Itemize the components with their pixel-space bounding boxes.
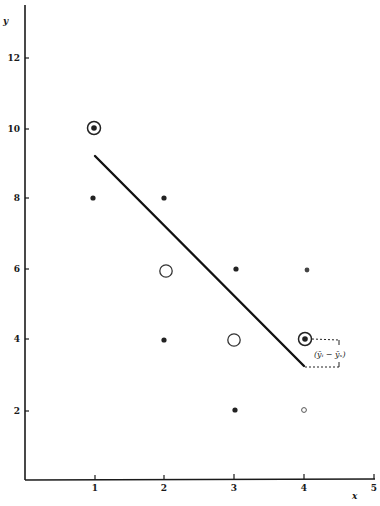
- scatter-chart: 12 10 8 6 4 2 y 1 2 3 4 5 x: [0, 0, 380, 506]
- y-tick-labels: 12 10 8 6 4 2: [7, 53, 20, 416]
- circled-points: [88, 122, 312, 346]
- y-tick-4: 4: [14, 334, 20, 344]
- point-4-2-open: [302, 408, 307, 413]
- y-axis-label: y: [2, 16, 9, 26]
- observation-points: [90, 195, 309, 412]
- x-tick-3: 3: [231, 483, 237, 493]
- point-2-4: [161, 337, 166, 342]
- x-tick-2: 2: [161, 483, 167, 493]
- deviation-annotation: (ȳᵢ − ȳₓ): [314, 350, 346, 359]
- y-tick-6: 6: [14, 264, 20, 274]
- point-3-6: [233, 266, 238, 271]
- mean-3-4: [228, 334, 240, 346]
- point-4-6: [305, 268, 310, 273]
- x-axis-label: x: [351, 491, 358, 501]
- y-tick-8: 8: [14, 193, 20, 203]
- x-axis: [25, 479, 375, 480]
- x-tick-1: 1: [92, 483, 98, 493]
- y-tick-12: 12: [7, 53, 20, 63]
- point-3-2: [232, 407, 237, 412]
- axes: [25, 5, 375, 480]
- x-tick-4: 4: [301, 483, 307, 493]
- point-1-8: [90, 195, 95, 200]
- circled-4-4-dot: [302, 336, 308, 342]
- y-tick-10: 10: [7, 124, 20, 134]
- regression-line: [95, 156, 304, 366]
- x-tick-5: 5: [371, 483, 377, 493]
- mean-2-6: [160, 265, 172, 277]
- mean-points: [160, 265, 240, 346]
- x-tick-labels: 1 2 3 4 5: [92, 483, 377, 493]
- point-2-8: [161, 195, 166, 200]
- circled-1-10-dot: [91, 125, 97, 131]
- y-tick-2: 2: [14, 406, 20, 416]
